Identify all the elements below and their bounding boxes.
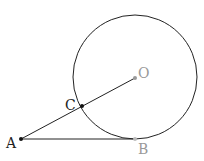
point-c <box>80 104 84 108</box>
label-c: C <box>65 97 76 113</box>
point-b <box>133 137 137 141</box>
point-a <box>19 137 23 141</box>
label-o: O <box>138 65 149 81</box>
label-a: A <box>5 135 17 151</box>
point-o <box>133 76 137 80</box>
segment-ao <box>21 78 135 139</box>
geometry-diagram: A C O B <box>0 0 204 161</box>
label-b: B <box>138 141 148 157</box>
